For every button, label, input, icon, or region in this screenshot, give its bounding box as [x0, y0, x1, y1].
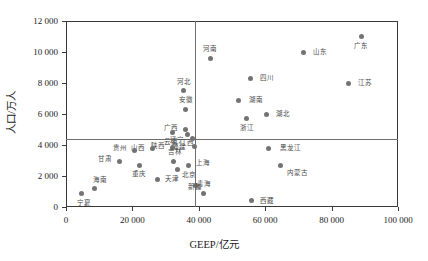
- y-axis-tick: [62, 21, 66, 22]
- x-axis-tick: [398, 207, 399, 211]
- data-point: [117, 159, 122, 164]
- data-point: [301, 50, 306, 55]
- y-axis-tick-label: 10 000: [4, 47, 58, 57]
- x-axis-tick-label: 100 000: [383, 215, 412, 225]
- data-point: [192, 144, 197, 149]
- data-point-label: 吉林: [168, 149, 182, 156]
- y-axis-tick-label: 12 000: [4, 16, 58, 26]
- x-axis-tick-label: 80 000: [319, 215, 344, 225]
- data-point-label: 内蒙古: [287, 170, 308, 177]
- data-point: [181, 88, 186, 93]
- y-axis-tick: [62, 145, 66, 146]
- data-point: [201, 191, 206, 196]
- data-point: [208, 56, 213, 61]
- data-point: [346, 81, 351, 86]
- data-point: [248, 76, 253, 81]
- data-point: [175, 167, 180, 172]
- data-point: [155, 177, 160, 182]
- data-point-label: 北京: [182, 172, 196, 179]
- data-point-label: 天津: [165, 176, 179, 183]
- y-axis-tick: [62, 52, 66, 53]
- y-axis-tick: [62, 207, 66, 208]
- data-point: [185, 132, 190, 137]
- data-point: [264, 112, 269, 117]
- data-point-label: 河北: [177, 79, 191, 86]
- x-axis-tick: [132, 207, 133, 211]
- data-point: [171, 159, 176, 164]
- x-axis-tick-label: 60 000: [253, 215, 278, 225]
- x-axis-tick: [265, 207, 266, 211]
- data-point: [79, 191, 84, 196]
- data-point-label: 湖南: [249, 97, 263, 104]
- data-point-label: 贵州: [113, 145, 127, 152]
- x-axis-label: GEEP/亿元: [0, 236, 428, 251]
- data-point-label: 安徽: [179, 97, 193, 104]
- data-point: [236, 98, 241, 103]
- data-point-label: 河南: [203, 46, 217, 53]
- data-point: [137, 163, 142, 168]
- reference-line-horizontal: [66, 139, 398, 140]
- data-point: [244, 116, 249, 121]
- x-axis-tick: [199, 207, 200, 211]
- data-point: [150, 146, 155, 151]
- y-axis-label: 人口/万人: [3, 78, 18, 148]
- chart-page: 广东山东河南江苏四川河北湖南湖北安徽浙江广西江西云南辽宁福建黑龙江陕西山西贵州吉…: [0, 0, 428, 261]
- data-point-label: 西藏: [260, 198, 274, 205]
- y-axis-tick: [62, 83, 66, 84]
- data-point-label: 山东: [313, 49, 327, 56]
- data-point-label: 黑龙江: [280, 145, 301, 152]
- data-point: [170, 130, 175, 135]
- data-point-label: 青海: [197, 181, 211, 188]
- data-point: [278, 163, 283, 168]
- data-point: [186, 163, 191, 168]
- data-point: [190, 136, 195, 141]
- y-axis-tick-label: 2 000: [4, 171, 58, 181]
- data-point: [92, 186, 97, 191]
- x-axis-tick: [66, 207, 67, 211]
- data-point-label: 重庆: [132, 171, 146, 178]
- data-point: [359, 34, 364, 39]
- data-point: [132, 148, 137, 153]
- data-point: [183, 107, 188, 112]
- data-point-label: 浙江: [240, 124, 254, 131]
- x-axis-tick-label: 0: [64, 215, 69, 225]
- data-point-label: 宁夏: [77, 200, 91, 207]
- data-point-label: 四川: [260, 75, 274, 82]
- data-point-label: 江苏: [358, 80, 372, 87]
- y-axis-tick-label: 0: [4, 202, 58, 212]
- data-point-label: 海南: [93, 177, 107, 184]
- y-axis-tick: [62, 176, 66, 177]
- y-axis-tick: [62, 114, 66, 115]
- data-point-label: 上海: [196, 160, 210, 167]
- data-point-label: 甘肃: [98, 156, 112, 163]
- x-axis-tick: [332, 207, 333, 211]
- plot-area: 广东山东河南江苏四川河北湖南湖北安徽浙江广西江西云南辽宁福建黑龙江陕西山西贵州吉…: [66, 21, 398, 207]
- data-point-label: 广东: [354, 42, 368, 49]
- x-axis-tick-label: 20 000: [120, 215, 145, 225]
- data-point: [249, 198, 254, 203]
- data-point: [266, 146, 271, 151]
- x-axis-tick-label: 40 000: [186, 215, 211, 225]
- data-point-label: 湖北: [276, 111, 290, 118]
